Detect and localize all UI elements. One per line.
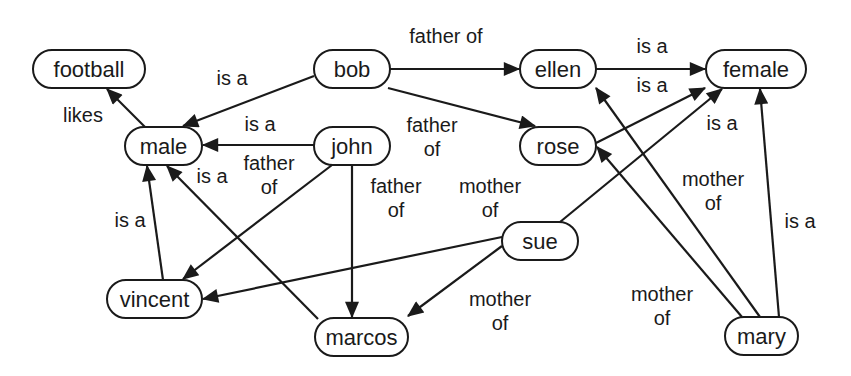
node-female: female: [706, 50, 806, 88]
edge-label: fatherof: [370, 175, 421, 221]
node-ellen: ellen: [520, 50, 596, 88]
node-john: john: [314, 127, 390, 165]
edge-label: fatherof: [243, 152, 294, 198]
edge-male-football: [107, 89, 145, 127]
node-label: vincent: [120, 287, 190, 312]
edge-label: motherof: [631, 283, 694, 329]
node-mary: mary: [725, 317, 798, 355]
edge-label: is a: [114, 209, 146, 231]
edge-label: is a: [636, 74, 668, 96]
node-label: mary: [737, 324, 786, 349]
edge-label: motherof: [682, 168, 745, 214]
edge-mary-female: [760, 89, 779, 317]
edge-label: fatherof: [406, 114, 457, 160]
node-football: football: [33, 50, 145, 88]
node-label: bob: [334, 57, 371, 82]
node-sue: sue: [502, 222, 578, 260]
node-label: female: [723, 57, 789, 82]
node-label: football: [54, 57, 125, 82]
node-label: rose: [537, 134, 580, 159]
node-bob: bob: [314, 50, 390, 88]
edge-label: motherof: [459, 175, 522, 221]
edge-label: is a: [196, 165, 228, 187]
edges-layer: [107, 69, 779, 319]
node-label: ellen: [535, 57, 581, 82]
edge-label: is a: [784, 210, 816, 232]
edge-label: motherof: [469, 288, 532, 334]
node-male: male: [125, 127, 202, 165]
node-label: male: [140, 134, 188, 159]
edge-label: father of: [409, 25, 483, 47]
node-marcos: marcos: [315, 318, 408, 356]
node-label: marcos: [325, 325, 397, 350]
node-label: sue: [522, 229, 557, 254]
node-vincent: vincent: [107, 280, 202, 318]
edge-label: is a: [244, 113, 276, 135]
edge-label: is a: [636, 35, 668, 57]
edge-vincent-male: [147, 166, 163, 280]
edge-label: is a: [216, 67, 248, 89]
edge-label: likes: [63, 104, 103, 126]
node-label: john: [330, 134, 373, 159]
node-rose: rose: [520, 127, 596, 165]
semantic-network-diagram: likesis afather ofis ais ais afatherofis…: [0, 0, 851, 376]
edge-label: is a: [706, 112, 738, 134]
